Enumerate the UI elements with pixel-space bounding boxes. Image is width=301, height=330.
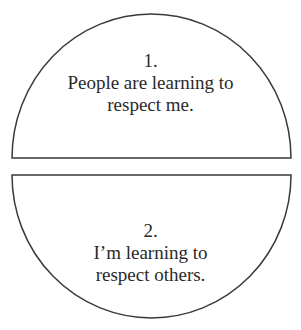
bottom-half-line-2: respect others.	[0, 264, 301, 286]
top-half-line-1: People are learning to	[0, 72, 301, 94]
bottom-half-number: 2.	[0, 220, 301, 242]
top-half-number: 1.	[0, 50, 301, 72]
bottom-half-text: 2. I’m learning to respect others.	[0, 220, 301, 286]
top-half-line-2: respect me.	[0, 94, 301, 116]
bottom-half-line-1: I’m learning to	[0, 242, 301, 264]
top-half-text: 1. People are learning to respect me.	[0, 50, 301, 116]
